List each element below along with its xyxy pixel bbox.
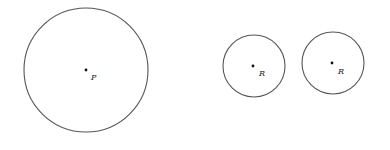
label-r2: R <box>337 67 344 76</box>
circle-p-group: P <box>24 8 148 132</box>
center-point-r2 <box>331 62 334 65</box>
center-point-p <box>85 69 88 72</box>
label-r1: R <box>258 69 265 78</box>
circle-r1-group: R <box>223 35 285 97</box>
circle-r2-group: R <box>302 32 364 94</box>
circles-diagram: P R R <box>0 0 390 150</box>
center-point-r1 <box>252 65 255 68</box>
label-p: P <box>90 73 97 82</box>
